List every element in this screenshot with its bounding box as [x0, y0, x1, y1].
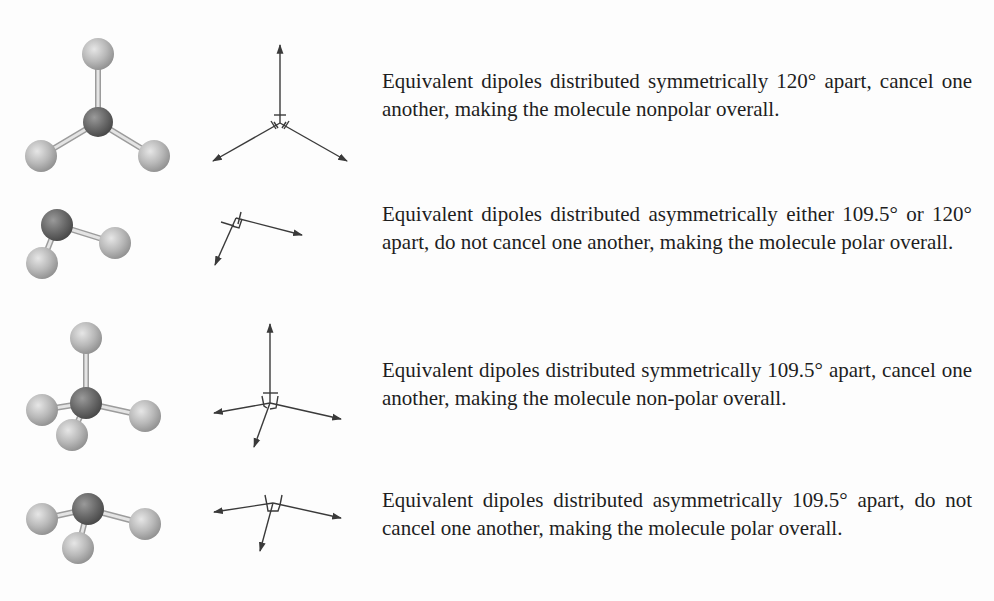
trigonal-planar-molecule-icon: [25, 38, 170, 172]
tetrahedral-dipole-vectors-icon: [214, 324, 341, 447]
description-trigonal-pyramidal: Equivalent dipoles distributed asymmetri…: [382, 486, 972, 542]
trigonal-planar-dipole-vectors-icon: [213, 45, 347, 161]
description-trigonal-planar: Equivalent dipoles distributed symmetric…: [382, 67, 972, 123]
trigonal-pyramidal-molecule-icon: [26, 493, 161, 564]
trigonal-pyramidal-dipole-vectors-icon: [214, 495, 341, 551]
bent-dipole-vectors-icon: [215, 212, 302, 265]
molecular-polarity-figure: Equivalent dipoles distributed symmetric…: [0, 0, 994, 601]
tetrahedral-molecule-icon: [26, 322, 161, 451]
description-bent: Equivalent dipoles distributed asymmetri…: [382, 200, 972, 256]
bent-molecule-icon: [26, 209, 131, 279]
description-tetrahedral: Equivalent dipoles distributed symmetric…: [382, 356, 972, 412]
